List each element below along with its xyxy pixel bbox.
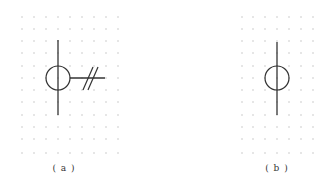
grid-dot (106, 115, 107, 116)
grid-dot (265, 53, 266, 54)
grid-dot (289, 153, 290, 154)
grid-dot (313, 78, 314, 79)
grid-dot (82, 41, 83, 42)
grid-dot (106, 78, 107, 79)
grid-dot (242, 17, 243, 18)
grid-dot (301, 139, 302, 140)
grid-dot (313, 139, 314, 140)
grid-dot (106, 29, 107, 30)
grid-dot (313, 102, 314, 103)
grid-dot (313, 115, 314, 116)
grid-dot (82, 115, 83, 116)
grid-dot (118, 29, 119, 30)
grid-dot (22, 90, 23, 91)
grid-dot (94, 115, 95, 116)
grid-dot (46, 66, 47, 67)
grid-dot (82, 127, 83, 128)
grid-dot (46, 17, 47, 18)
grid-dot (301, 66, 302, 67)
grid-dot (70, 29, 71, 30)
grid-dot (82, 153, 83, 154)
grid-dot (253, 66, 254, 67)
grid-dot (82, 29, 83, 30)
grid-dot (46, 53, 47, 54)
grid-dot (265, 29, 266, 30)
grid-dot (242, 41, 243, 42)
grid-dot (70, 41, 71, 42)
grid-dot (94, 102, 95, 103)
grid-dot (277, 127, 278, 128)
grid-dot (22, 115, 23, 116)
grid-dot (313, 41, 314, 42)
grid-dot (70, 139, 71, 140)
grid-dot (106, 66, 107, 67)
grid-dot (289, 115, 290, 116)
grid-dot (70, 127, 71, 128)
grid-dot (118, 41, 119, 42)
grid-dot (118, 17, 119, 18)
grid-dot (106, 102, 107, 103)
grid-dot (94, 153, 95, 154)
grid-dot (70, 102, 71, 103)
grid-dot (22, 17, 23, 18)
diagram-canvas: ( a ) ( b ) (0, 0, 328, 189)
grid-dot (277, 29, 278, 30)
grid-dot (253, 53, 254, 54)
grid-dot (253, 17, 254, 18)
grid-dot (289, 90, 290, 91)
grid-dot (82, 17, 83, 18)
grid-dot (289, 102, 290, 103)
grid-dot (289, 139, 290, 140)
grid-dot (118, 127, 119, 128)
grid-dot (289, 127, 290, 128)
grid-dot (265, 66, 266, 67)
grid-dot (34, 29, 35, 30)
grid-dot (58, 17, 59, 18)
grid-dot (242, 66, 243, 67)
grid-dot (106, 139, 107, 140)
grid-dot (46, 153, 47, 154)
grid-dot (253, 78, 254, 79)
grid-dot (242, 115, 243, 116)
grid-dot (34, 115, 35, 116)
grid-dot (70, 153, 71, 154)
grid-dot (106, 127, 107, 128)
grid-dot (265, 17, 266, 18)
grid-dot (118, 139, 119, 140)
symbol-diagram (0, 0, 328, 189)
grid-dot (46, 139, 47, 140)
grid-dot (58, 153, 59, 154)
grid-dot (46, 102, 47, 103)
grid-dot (94, 66, 95, 67)
grid-dot (301, 29, 302, 30)
grid-dot (242, 139, 243, 140)
grid-dot (34, 139, 35, 140)
grid-dot (242, 90, 243, 91)
grid-dot (94, 139, 95, 140)
grid-dot (22, 102, 23, 103)
grid-dot (313, 90, 314, 91)
grid-dot (34, 127, 35, 128)
grid-dot (70, 115, 71, 116)
grid-dot (118, 90, 119, 91)
grid-dot (301, 90, 302, 91)
grid-dot (253, 139, 254, 140)
grid-dot (106, 41, 107, 42)
grid-dot (253, 102, 254, 103)
grid-dot (277, 41, 278, 42)
grid-dot (301, 153, 302, 154)
grid-dot (265, 41, 266, 42)
grid-dot (265, 139, 266, 140)
grid-dot (301, 78, 302, 79)
grid-dot (242, 53, 243, 54)
grid-dot (70, 66, 71, 67)
grid-dot (46, 115, 47, 116)
grid-dot (82, 90, 83, 91)
grid-dot (265, 153, 266, 154)
grid-dot (34, 153, 35, 154)
grid-dot (313, 29, 314, 30)
grid-dot (301, 53, 302, 54)
grid-dot (277, 153, 278, 154)
grid-dot (118, 66, 119, 67)
grid-dot (277, 17, 278, 18)
